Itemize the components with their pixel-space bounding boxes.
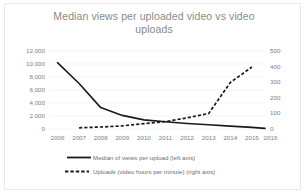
legend-label-median-views: Median of views per upload (left axis) bbox=[93, 154, 195, 161]
x-tick-label-2012: 2012 bbox=[180, 134, 194, 141]
right-tick-label-200: 200 bbox=[270, 94, 281, 101]
right-tick-label-300: 300 bbox=[270, 78, 281, 85]
legend-item-median-views[interactable]: Median of views per upload (left axis) bbox=[67, 154, 195, 161]
chart-container: Median views per uploaded video vs video… bbox=[4, 3, 301, 190]
left-tick-label-4000: 4,000 bbox=[30, 99, 46, 106]
left-tick-label-10000: 10,000 bbox=[26, 60, 45, 67]
x-tick-label-2016: 2016 bbox=[264, 134, 278, 141]
x-tick-label-2011: 2011 bbox=[159, 134, 173, 141]
left-tick-label-8000: 8,000 bbox=[30, 73, 46, 80]
chart-svg: 12,000 10,000 8,000 6,000 4,000 2,000 0 … bbox=[5, 4, 302, 191]
x-tick-label-2009: 2009 bbox=[115, 134, 129, 141]
x-tick-label-2006: 2006 bbox=[51, 134, 65, 141]
x-tick-label-2010: 2010 bbox=[137, 134, 151, 141]
right-tick-label-400: 400 bbox=[270, 63, 281, 70]
left-axis-tick-labels: 12,000 10,000 8,000 6,000 4,000 2,000 0 bbox=[26, 47, 45, 132]
x-tick-label-2013: 2013 bbox=[202, 134, 216, 141]
x-tick-label-2015: 2015 bbox=[245, 134, 259, 141]
left-tick-label-6000: 6,000 bbox=[30, 86, 46, 93]
x-tick-label-2014: 2014 bbox=[223, 134, 237, 141]
right-tick-label-500: 500 bbox=[270, 47, 281, 54]
series-uploads-line bbox=[79, 67, 252, 128]
right-tick-label-0: 0 bbox=[270, 125, 274, 132]
solid-series-path bbox=[58, 63, 266, 129]
x-tick-label-2007: 2007 bbox=[72, 134, 86, 141]
series-median-views-line bbox=[58, 63, 266, 129]
left-tick-label-0: 0 bbox=[42, 125, 46, 132]
plot-area-wrapper: 12,000 10,000 8,000 6,000 4,000 2,000 0 … bbox=[5, 4, 302, 191]
legend-label-uploads: Uploads (video hours per minute) (right … bbox=[93, 168, 215, 175]
left-tick-label-2000: 2,000 bbox=[30, 112, 46, 119]
x-tick-label-2008: 2008 bbox=[94, 134, 108, 141]
right-axis-tick-labels: 500 400 300 200 100 0 bbox=[270, 47, 281, 132]
gridlines bbox=[49, 51, 265, 129]
left-tick-label-12000: 12,000 bbox=[26, 47, 45, 54]
chart-legend: Median of views per upload (left axis) U… bbox=[65, 154, 215, 175]
dashed-series-path bbox=[79, 67, 252, 128]
legend-item-uploads[interactable]: Uploads (video hours per minute) (right … bbox=[65, 168, 215, 175]
x-axis-tick-labels: 2006 2007 2008 2009 2010 2011 2012 2013 … bbox=[51, 134, 278, 141]
right-tick-label-100: 100 bbox=[270, 109, 281, 116]
